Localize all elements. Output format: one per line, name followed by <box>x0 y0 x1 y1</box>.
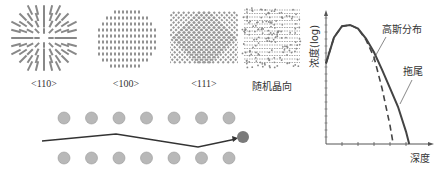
lattice-atom-bottom <box>168 152 180 164</box>
atom-dot <box>246 60 248 62</box>
atom-dot <box>245 52 247 54</box>
atom-dot <box>255 60 257 62</box>
atom-dot <box>265 9 267 11</box>
crystal-110-figure <box>10 4 78 72</box>
atom-dash <box>35 43 39 47</box>
atom-dot <box>271 49 273 51</box>
atom-dot <box>280 31 282 33</box>
atom-dot <box>278 30 280 32</box>
atom-dot <box>261 27 263 29</box>
atom-dot <box>290 44 292 46</box>
atom-dot <box>252 25 254 27</box>
ion-path <box>42 134 236 147</box>
atom-dot <box>255 25 257 27</box>
atom-dot <box>255 45 257 47</box>
atom-dot <box>295 13 297 15</box>
atom-dash <box>49 43 53 47</box>
atom-dot <box>276 65 278 67</box>
atom-dot <box>249 50 251 52</box>
atom-dot <box>284 45 286 47</box>
atom-dot <box>249 21 251 23</box>
implanted-ion <box>237 131 249 143</box>
atom-dot <box>246 16 248 18</box>
lattice-atom-top <box>58 112 70 124</box>
atom-dot <box>255 57 257 59</box>
atom-dot <box>246 11 248 13</box>
annotation-gaussian: 高斯分布 <box>382 23 422 35</box>
atom-dot <box>275 36 277 38</box>
atom-dot <box>294 64 296 66</box>
atom-dot <box>291 52 293 54</box>
atom-dot <box>258 36 260 38</box>
atom-dot <box>268 59 270 61</box>
crystal-random-figure <box>238 4 306 72</box>
atom-dot <box>260 17 262 19</box>
atom-dash <box>27 49 33 55</box>
atom-dot <box>261 9 263 11</box>
atom-dot <box>267 37 269 39</box>
atom-dot <box>274 9 276 11</box>
atom-dot <box>251 66 253 68</box>
lattice-atom-bottom <box>223 152 235 164</box>
atom-dot <box>268 51 270 53</box>
leader-gaussian <box>372 37 386 62</box>
atom-dot <box>259 62 261 64</box>
atom-dot <box>286 54 288 56</box>
atom-dot <box>286 46 288 48</box>
atom-dash <box>49 49 52 55</box>
atom-dot <box>291 18 293 20</box>
atom-dot <box>294 32 296 34</box>
atom-dot <box>256 22 258 24</box>
atom-dash <box>35 49 38 55</box>
atom-dot <box>243 30 245 32</box>
atom-dot <box>274 66 276 68</box>
profile-chart: 浓度(log) 深度 高斯分布 拖尾 <box>300 0 442 180</box>
lattice-atom-bottom <box>196 152 208 164</box>
atom-dot <box>284 49 286 51</box>
x-axis-arrow-icon <box>428 142 434 146</box>
atom-dash <box>49 29 53 33</box>
atom-dash <box>27 21 33 27</box>
atom-dot <box>265 14 267 16</box>
atom-dot <box>274 10 276 12</box>
atom-dot <box>261 63 263 65</box>
atom-dot <box>258 42 260 44</box>
atom-dash <box>49 21 52 27</box>
atom-dot <box>282 17 284 19</box>
y-axis-label: 浓度(log) <box>308 25 320 68</box>
lattice-atom-top <box>223 112 235 124</box>
atom-dot <box>282 51 284 53</box>
lattice-atom-top <box>168 112 180 124</box>
atom-dash <box>61 13 68 20</box>
atom-dot <box>258 28 260 30</box>
atom-dot <box>270 22 272 24</box>
atom-dot <box>281 59 283 61</box>
atom-dot <box>267 30 269 32</box>
atom-dot <box>257 53 259 55</box>
atom-dot <box>279 57 281 59</box>
atom-dash <box>27 29 33 32</box>
atom-dash <box>19 13 26 20</box>
atom-dot <box>286 15 288 17</box>
atom-dot <box>289 32 291 34</box>
atom-dot <box>257 64 259 66</box>
atom-dash <box>35 21 38 27</box>
atom-dot <box>246 8 248 10</box>
atom-dot <box>268 12 270 14</box>
series-tail-line <box>326 25 409 144</box>
lattice-atom-bottom <box>86 152 98 164</box>
atom-dot <box>295 41 297 43</box>
crystal-100-label: <100> <box>91 78 161 89</box>
atom-dot <box>249 55 251 57</box>
atom-dot <box>276 35 278 37</box>
atom-dot <box>242 29 244 31</box>
crystal-111-figure <box>170 4 238 72</box>
atom-dot <box>269 16 271 18</box>
crystal-110-label: <110> <box>9 78 79 89</box>
leader-tail <box>400 80 412 104</box>
atom-dot <box>295 23 297 25</box>
atom-dot <box>246 63 248 65</box>
crystal-100-figure <box>92 4 160 72</box>
atom-dot <box>265 38 267 40</box>
atom-dot <box>251 7 253 9</box>
